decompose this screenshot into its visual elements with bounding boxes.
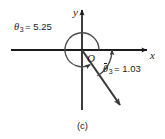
- figure-container: x y O θ3= 5.25 θ3= 1.03 (c): [0, 0, 165, 139]
- theta-subscript: 3: [19, 26, 23, 33]
- theta-bar-symbol: θ: [103, 64, 108, 75]
- reference-angle-value: 1.03: [122, 63, 141, 74]
- figure-caption: (c): [0, 120, 165, 131]
- origin-label: O: [87, 52, 95, 64]
- equals-sign: =: [24, 21, 31, 32]
- y-axis-label: y: [72, 6, 78, 18]
- large-angle-value: 5.25: [33, 21, 52, 32]
- x-axis-label: x: [149, 49, 155, 61]
- theta-bar-subscript: 3: [108, 68, 112, 75]
- theta-symbol: θ: [14, 22, 19, 33]
- equals-sign: =: [113, 63, 120, 74]
- reference-angle-label: θ3= 1.03: [103, 64, 141, 75]
- large-angle-label: θ3= 5.25: [14, 22, 52, 33]
